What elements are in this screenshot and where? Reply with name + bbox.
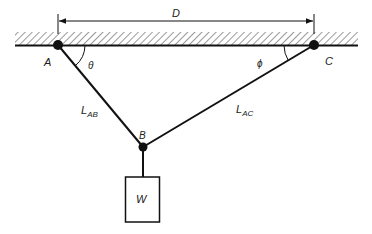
cable-ac-label: LAC [236, 103, 253, 118]
weight-label: W [136, 193, 148, 205]
point-b-label: B [139, 130, 146, 141]
angle-phi-label: ϕ [257, 58, 263, 69]
angle-theta-label: θ [88, 60, 94, 71]
joint-b [139, 143, 148, 152]
dimension-label: D [172, 7, 180, 19]
dimension-d: D [58, 7, 314, 34]
point-c-label: C [325, 55, 333, 67]
cable-suspension-diagram: D A C B θ ϕ W LAB LAC [0, 0, 372, 234]
cable-ab [58, 45, 143, 147]
cable-ab-label: LAB [81, 104, 98, 119]
joint-c [309, 40, 319, 50]
cable-ac-label-sub: AC [241, 109, 253, 118]
angle-phi-arc [284, 46, 288, 61]
ceiling-support [15, 32, 358, 46]
cable-ab-label-sub: AB [86, 110, 98, 119]
angle-theta-arc [75, 46, 85, 66]
ceiling-hatch [15, 32, 358, 45]
point-a-label: A [43, 56, 51, 68]
joint-a [53, 40, 63, 50]
